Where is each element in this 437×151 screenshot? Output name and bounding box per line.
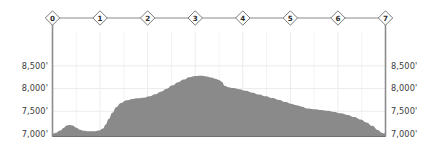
waypoint-marker-label: 3 (193, 14, 198, 23)
waypoint-marker-label: 4 (240, 14, 245, 23)
waypoint-marker-2[interactable]: 2 (140, 11, 154, 25)
waypoint-marker-1[interactable]: 1 (93, 11, 107, 25)
elevation-profile-chart: 01234567 (0, 0, 437, 151)
waypoint-marker-5[interactable]: 5 (283, 11, 297, 25)
waypoint-marker-label: 5 (288, 14, 293, 23)
elevation-profile-widget: 8,500' 8,000' 7,500' 7,000' 8,500' 8,000… (0, 0, 437, 151)
waypoint-marker-4[interactable]: 4 (236, 11, 250, 25)
waypoint-marker-label: 7 (383, 14, 388, 23)
waypoint-marker-label: 2 (145, 14, 150, 23)
waypoint-marker-label: 6 (335, 14, 340, 23)
waypoint-marker-7[interactable]: 7 (378, 11, 392, 25)
waypoint-marker-label: 1 (98, 14, 103, 23)
waypoint-marker-0[interactable]: 0 (45, 11, 59, 25)
terrain-area-fill (53, 76, 386, 137)
waypoint-marker-3[interactable]: 3 (188, 11, 202, 25)
waypoint-marker-6[interactable]: 6 (331, 11, 345, 25)
waypoint-marker-label: 0 (50, 14, 55, 23)
